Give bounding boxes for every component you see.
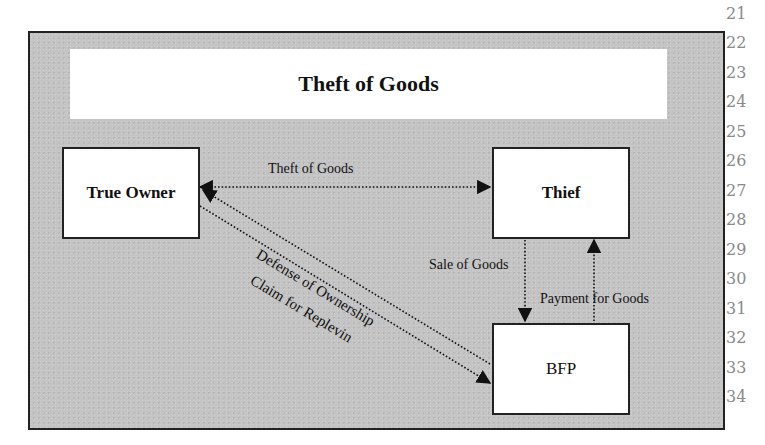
edge-label-sale-of-goods: Sale of Goods [429, 257, 508, 273]
line-number: 24 [726, 92, 746, 111]
line-number: 25 [726, 122, 746, 141]
line-number: 23 [726, 63, 746, 82]
node-label: Thief [542, 183, 581, 203]
line-number: 32 [726, 328, 746, 347]
line-number: 31 [726, 299, 746, 318]
node-thief: Thief [492, 147, 630, 239]
edge-claim-for-replevin [200, 206, 490, 383]
line-number: 22 [726, 33, 746, 52]
line-number: 30 [726, 269, 746, 288]
node-label: True Owner [87, 183, 176, 203]
node-true-owner: True Owner [62, 147, 200, 239]
edge-label-payment-for-goods: Payment for Goods [540, 291, 649, 307]
line-number: 27 [726, 181, 746, 200]
line-number: 28 [726, 210, 746, 229]
line-number: 26 [726, 151, 746, 170]
line-number: 33 [726, 358, 746, 377]
edge-label-theft-of-goods: Theft of Goods [268, 161, 354, 177]
line-number: 34 [726, 387, 746, 406]
node-bfp: BFP [492, 323, 630, 415]
line-number: 29 [726, 240, 746, 259]
node-label: BFP [546, 359, 576, 379]
line-number: 21 [726, 4, 746, 23]
